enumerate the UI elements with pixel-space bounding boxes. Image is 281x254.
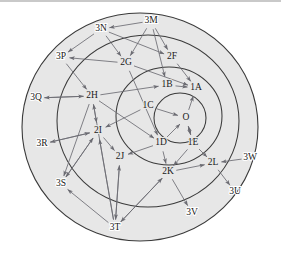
ring-group <box>22 13 258 241</box>
node-label-2I[interactable]: 2I <box>94 125 102 135</box>
node-label-2L[interactable]: 2L <box>208 157 219 167</box>
node-label-1B[interactable]: 1B <box>161 79 172 89</box>
node-label-3S[interactable]: 3S <box>56 178 66 188</box>
node-label-3W[interactable]: 3W <box>243 152 257 162</box>
node-label-2F[interactable]: 2F <box>167 51 177 61</box>
node-label-3R[interactable]: 3R <box>36 138 48 148</box>
node-label-1E[interactable]: 1E <box>188 137 199 147</box>
node-label-1A[interactable]: 1A <box>190 82 202 92</box>
node-label-2K[interactable]: 2K <box>162 166 174 176</box>
node-label-2H[interactable]: 2H <box>86 90 98 100</box>
node-label-1D[interactable]: 1D <box>155 137 167 147</box>
node-label-3V[interactable]: 3V <box>186 207 198 217</box>
node-label-3Q[interactable]: 3Q <box>30 92 42 102</box>
node-label-3U[interactable]: 3U <box>229 186 241 196</box>
node-label-3P[interactable]: 3P <box>56 51 66 61</box>
concentric-network-diagram: O1A1B1C1D1E2F2G2H2I2J2K2L3M3N3P3Q3R3S3T3… <box>0 0 281 254</box>
node-label-3T[interactable]: 3T <box>110 222 121 232</box>
node-label-3M[interactable]: 3M <box>144 15 158 25</box>
node-label-O[interactable]: O <box>183 112 190 122</box>
node-label-2J[interactable]: 2J <box>116 151 125 161</box>
node-label-3N[interactable]: 3N <box>95 23 107 33</box>
node-label-1C[interactable]: 1C <box>142 100 153 110</box>
diagram-canvas: O1A1B1C1D1E2F2G2H2I2J2K2L3M3N3P3Q3R3S3T3… <box>0 0 281 254</box>
node-label-2G[interactable]: 2G <box>120 57 132 67</box>
